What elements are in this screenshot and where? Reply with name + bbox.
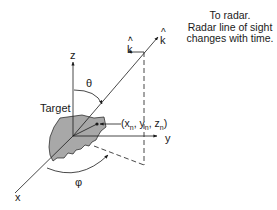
k-dot-hat-label: k bbox=[127, 44, 133, 55]
z-axis-label: z bbox=[70, 50, 76, 61]
point-coordinates-label: (xn, yn, zn) bbox=[121, 118, 167, 131]
annotation-line-3: changes with time. bbox=[184, 33, 276, 45]
x-axis-label: x bbox=[15, 192, 21, 203]
phi-label: φ bbox=[75, 177, 82, 188]
target-shape bbox=[49, 115, 106, 161]
projection-dashed-ground bbox=[94, 146, 144, 165]
theta-label: θ bbox=[86, 78, 92, 89]
theta-arc bbox=[74, 90, 102, 104]
k-hat-label: k bbox=[160, 35, 166, 46]
annotation-line-1: To radar. bbox=[184, 10, 276, 22]
scatter-point bbox=[95, 122, 98, 125]
target-label: Target bbox=[40, 103, 71, 114]
coord-x: (x bbox=[121, 117, 130, 129]
radar-annotation: To radar. Radar line of sight changes wi… bbox=[184, 10, 276, 45]
coord-z: , z bbox=[149, 117, 160, 129]
x-axis bbox=[15, 136, 73, 193]
coord-close: ) bbox=[164, 117, 168, 129]
coord-y: , y bbox=[134, 117, 145, 129]
y-axis-label: y bbox=[165, 133, 171, 144]
